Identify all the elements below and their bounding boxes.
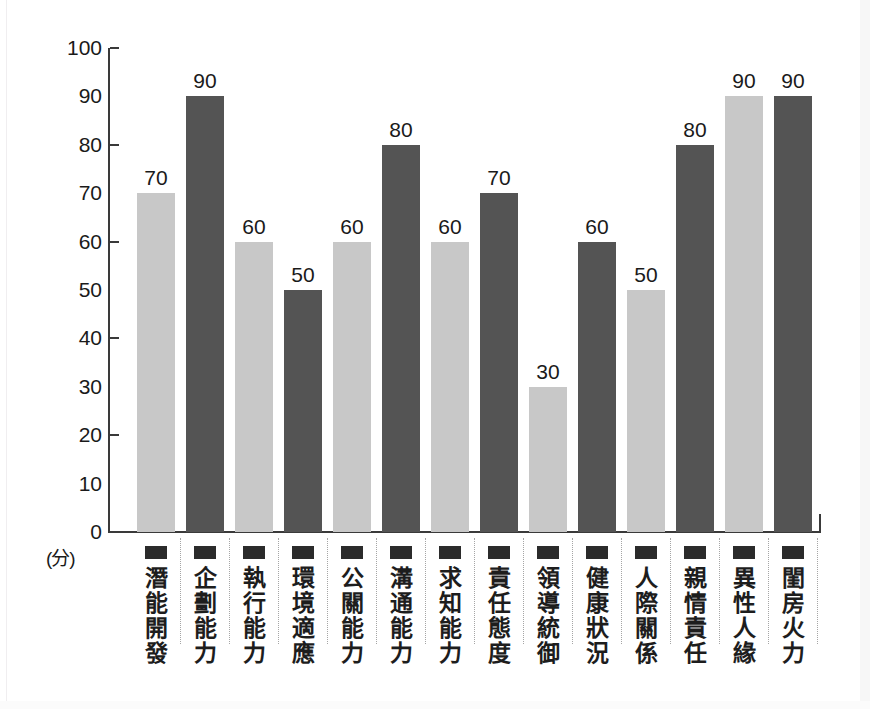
square-marker-icon xyxy=(145,546,167,559)
category-label-char: 統 xyxy=(524,616,573,641)
category-label-char: 發 xyxy=(132,641,181,666)
bar-group[interactable]: 50 xyxy=(622,48,671,532)
bar[interactable] xyxy=(578,242,616,532)
bar-group[interactable]: 60 xyxy=(230,48,279,532)
y-axis-tick-label: 30 xyxy=(46,376,102,397)
category-label-cell[interactable]: 求知能力 xyxy=(426,536,475,704)
category-label-char: 性 xyxy=(720,591,769,616)
bar[interactable] xyxy=(382,145,420,532)
category-label-char: 能 xyxy=(230,616,279,641)
bar-group[interactable]: 60 xyxy=(426,48,475,532)
bar[interactable] xyxy=(333,242,371,532)
category-label-cell[interactable]: 健康狀況 xyxy=(573,536,622,704)
y-axis-tick-label: 40 xyxy=(46,327,102,348)
category-label-char: 度 xyxy=(475,641,524,666)
category-label-char: 任 xyxy=(671,641,720,666)
bar-group[interactable]: 50 xyxy=(279,48,328,532)
category-label-cell[interactable]: 責任態度 xyxy=(475,536,524,704)
category-label-text: 健康狀況 xyxy=(573,566,622,666)
bar-group[interactable]: 90 xyxy=(769,48,818,532)
category-label-char: 火 xyxy=(769,616,818,641)
y-axis-unit-label: (分) xyxy=(46,543,75,570)
bar[interactable] xyxy=(235,242,273,532)
category-label-char: 健 xyxy=(573,566,622,591)
bar-group[interactable]: 80 xyxy=(671,48,720,532)
category-label-cell[interactable]: 公關能力 xyxy=(328,536,377,704)
bar[interactable] xyxy=(480,193,518,532)
bar[interactable] xyxy=(676,145,714,532)
bar[interactable] xyxy=(284,290,322,532)
category-label-cell[interactable]: 企劃能力 xyxy=(181,536,230,704)
category-label-char: 行 xyxy=(230,591,279,616)
category-label-text: 閨房火力 xyxy=(769,566,818,666)
bar-value-label: 50 xyxy=(278,264,328,285)
bar-value-label: 90 xyxy=(719,70,769,91)
bar[interactable] xyxy=(627,290,665,532)
category-label-char: 執 xyxy=(230,566,279,591)
category-label-text: 執行能力 xyxy=(230,566,279,666)
category-label-cell[interactable]: 閨房火力 xyxy=(769,536,818,704)
category-label-text: 企劃能力 xyxy=(181,566,230,666)
chart-page: 0102030405060708090100 (分) 7090605060806… xyxy=(0,0,870,709)
category-label-cell[interactable]: 環境適應 xyxy=(279,536,328,704)
category-label-char: 開 xyxy=(132,616,181,641)
category-label-char: 溝 xyxy=(377,566,426,591)
bar-value-label: 60 xyxy=(327,216,377,237)
category-label-text: 潛能開發 xyxy=(132,566,181,666)
bar-group[interactable]: 70 xyxy=(475,48,524,532)
bar[interactable] xyxy=(431,242,469,532)
bar[interactable] xyxy=(774,96,812,532)
category-label-char: 力 xyxy=(181,641,230,666)
square-marker-icon xyxy=(684,546,706,559)
bar-group[interactable]: 30 xyxy=(524,48,573,532)
category-label-cell[interactable]: 潛能開發 xyxy=(132,536,181,704)
category-label-text: 領導統御 xyxy=(524,566,573,666)
category-label-char: 力 xyxy=(769,641,818,666)
category-label-cell[interactable]: 執行能力 xyxy=(230,536,279,704)
y-axis-tick-label: 90 xyxy=(46,85,102,106)
category-label-char: 求 xyxy=(426,566,475,591)
category-label-char: 境 xyxy=(279,591,328,616)
y-axis-tick-label: 20 xyxy=(46,424,102,445)
bar[interactable] xyxy=(137,193,175,532)
bar-group[interactable]: 80 xyxy=(377,48,426,532)
category-label-cell[interactable]: 溝通能力 xyxy=(377,536,426,704)
y-axis-tick-label: 50 xyxy=(46,279,102,300)
bar[interactable] xyxy=(725,96,763,532)
bar-value-label: 80 xyxy=(670,119,720,140)
bar[interactable] xyxy=(186,96,224,532)
bar-value-label: 70 xyxy=(131,167,181,188)
bar-value-label: 30 xyxy=(523,361,573,382)
category-label-cell[interactable]: 親情責任 xyxy=(671,536,720,704)
category-label-cell[interactable]: 領導統御 xyxy=(524,536,573,704)
square-marker-icon xyxy=(635,546,657,559)
category-label-char: 關 xyxy=(622,616,671,641)
y-axis-tick-label: 10 xyxy=(46,473,102,494)
category-label-char: 適 xyxy=(279,616,328,641)
bar-group[interactable]: 60 xyxy=(573,48,622,532)
category-label-char: 況 xyxy=(573,641,622,666)
category-label-char: 導 xyxy=(524,591,573,616)
bar-group[interactable]: 90 xyxy=(720,48,769,532)
bar-value-label: 90 xyxy=(180,70,230,91)
category-label-char: 責 xyxy=(671,616,720,641)
category-label-char: 知 xyxy=(426,591,475,616)
bar-group[interactable]: 70 xyxy=(132,48,181,532)
category-label-char: 係 xyxy=(622,641,671,666)
category-label-char: 情 xyxy=(671,591,720,616)
bar-chart: 0102030405060708090100 (分) 7090605060806… xyxy=(0,0,870,709)
bar[interactable] xyxy=(529,387,567,532)
bar-value-label: 70 xyxy=(474,167,524,188)
bar-value-label: 60 xyxy=(425,216,475,237)
category-label-char: 能 xyxy=(426,616,475,641)
bar-group[interactable]: 60 xyxy=(328,48,377,532)
square-marker-icon xyxy=(194,546,216,559)
category-label-char: 能 xyxy=(377,616,426,641)
bar-group[interactable]: 90 xyxy=(181,48,230,532)
category-label-char: 親 xyxy=(671,566,720,591)
category-label-cell[interactable]: 人際關係 xyxy=(622,536,671,704)
category-label-char: 力 xyxy=(230,641,279,666)
category-label-text: 異性人緣 xyxy=(720,566,769,666)
category-label-cell[interactable]: 異性人緣 xyxy=(720,536,769,704)
category-label-text: 親情責任 xyxy=(671,566,720,666)
